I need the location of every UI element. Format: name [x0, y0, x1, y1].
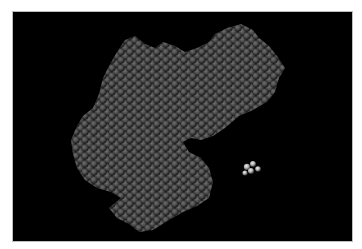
molecule-render	[13, 12, 353, 242]
molecule-viewport[interactable]	[12, 11, 353, 242]
ligand-molecule	[242, 161, 260, 176]
protein-surface	[71, 24, 285, 232]
